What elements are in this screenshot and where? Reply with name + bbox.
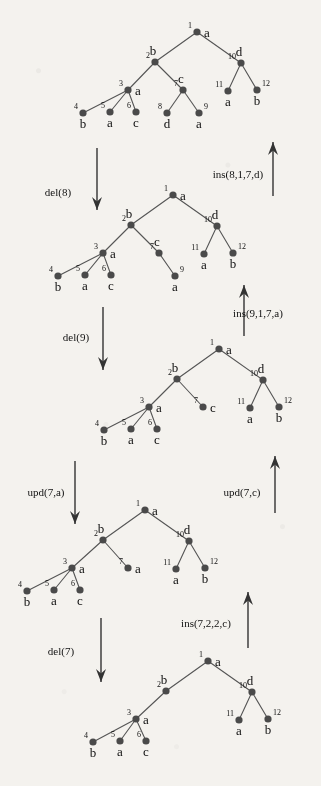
node-dot <box>68 564 75 571</box>
node-id-label: 6 <box>71 579 75 588</box>
tree-edge <box>167 90 183 113</box>
node-dot <box>141 506 148 513</box>
node-dot <box>259 376 266 383</box>
node-value-label: a <box>110 246 116 261</box>
node-id-label: 6 <box>127 101 131 110</box>
tree-edge <box>136 691 166 719</box>
tree-edge <box>110 90 128 112</box>
node-value-label: b <box>276 410 283 425</box>
node-value-label: b <box>55 279 62 294</box>
tree-node: 10d <box>239 673 256 696</box>
tree-node: 7c <box>174 71 187 94</box>
operation-label: upd(7,c) <box>224 486 261 499</box>
node-id-label: 1 <box>136 499 140 508</box>
tree-edges-layer <box>27 32 279 742</box>
operation-label: del(8) <box>45 186 72 199</box>
node-value-label: a <box>135 561 141 576</box>
node-dot <box>99 249 106 256</box>
node-value-label: d <box>247 673 254 688</box>
tree-node: 1a <box>210 338 232 357</box>
tree-node: 10d <box>204 207 221 230</box>
tree-node: 8d <box>158 102 171 131</box>
tree-node: 2b <box>122 206 135 229</box>
tree-node: 5a <box>76 264 89 293</box>
tree-node: 1a <box>136 499 158 518</box>
node-id-label: 3 <box>140 396 144 405</box>
tree-edge <box>263 380 279 407</box>
tree-edge <box>131 407 149 429</box>
tree-node: 4b <box>49 265 62 294</box>
tree-node: 7a <box>119 557 141 576</box>
tree-node: 11a <box>226 709 242 738</box>
node-value-label: c <box>154 432 160 447</box>
node-value-label: c <box>178 71 184 86</box>
node-value-label: a <box>143 712 149 727</box>
node-dot <box>204 657 211 664</box>
tree-node: 2b <box>168 360 181 383</box>
node-dot <box>199 403 206 410</box>
tree-node: 12b <box>253 79 270 108</box>
node-id-label: 12 <box>262 79 270 88</box>
tree-edge <box>189 541 205 568</box>
node-id-label: 5 <box>122 418 126 427</box>
node-value-label: a <box>172 279 178 294</box>
node-dot <box>173 375 180 382</box>
node-id-label: 11 <box>163 558 171 567</box>
tree-edge <box>103 225 131 253</box>
node-dot <box>124 86 131 93</box>
node-id-label: 11 <box>191 243 199 252</box>
tree-edge <box>103 540 128 568</box>
node-id-label: 5 <box>45 579 49 588</box>
node-value-label: b <box>265 722 272 737</box>
tree-node: 7c <box>150 234 163 257</box>
operation-label: ins(8,1,7,d) <box>213 168 264 181</box>
tree-node: 10d <box>176 522 193 545</box>
node-value-label: a <box>226 342 232 357</box>
node-id-label: 5 <box>101 101 105 110</box>
node-value-label: c <box>108 278 114 293</box>
tree-edge <box>176 541 189 569</box>
node-dot <box>155 249 162 256</box>
tree-node: 12b <box>264 708 281 737</box>
node-value-label: a <box>79 561 85 576</box>
tree-edge <box>104 407 149 430</box>
tree-edge <box>228 63 241 91</box>
tree-node: 5a <box>122 418 135 447</box>
node-id-label: 1 <box>199 650 203 659</box>
tree-node: 1a <box>188 21 210 40</box>
tree-edge <box>217 226 233 253</box>
node-dot <box>99 536 106 543</box>
tree-node: 2b <box>157 672 170 695</box>
tree-edge <box>83 90 128 113</box>
node-dot <box>215 345 222 352</box>
node-value-label: d <box>164 116 171 131</box>
tree-node: 12b <box>275 396 292 425</box>
node-value-label: a <box>215 654 221 669</box>
tree-edge <box>120 719 136 741</box>
tree-edge <box>177 379 203 407</box>
operation-label: ins(9,1,7,a) <box>233 307 283 320</box>
tree-edge <box>149 379 177 407</box>
tree-node: 11a <box>191 243 207 272</box>
node-id-label: 3 <box>119 79 123 88</box>
node-dot <box>179 86 186 93</box>
node-value-label: d <box>212 207 219 222</box>
node-id-label: 5 <box>111 730 115 739</box>
tree-node: 12b <box>229 242 246 271</box>
tree-node: 9a <box>171 265 184 294</box>
node-value-label: b <box>172 360 179 375</box>
node-id-label: 3 <box>94 242 98 251</box>
node-value-label: a <box>225 94 231 109</box>
node-value-label: b <box>24 594 31 609</box>
tree-node: 4b <box>84 731 97 760</box>
node-value-label: c <box>133 115 139 130</box>
tree-edge <box>241 63 257 90</box>
node-id-label: 4 <box>49 265 53 274</box>
tree-node: 4b <box>95 419 108 448</box>
tree-node: 9a <box>195 102 208 131</box>
node-id-label: 8 <box>158 102 162 111</box>
tree-edge <box>252 692 268 719</box>
node-id-label: 4 <box>74 102 78 111</box>
node-dot <box>162 687 169 694</box>
tree-edge <box>166 661 208 691</box>
